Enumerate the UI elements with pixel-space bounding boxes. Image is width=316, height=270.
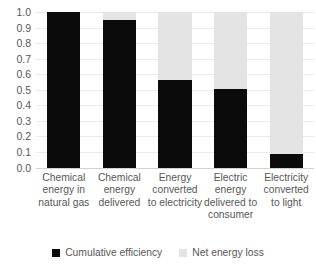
bar-segment-net-energy-loss bbox=[214, 12, 247, 89]
y-axis-tick-label: 0.0 bbox=[0, 163, 31, 173]
y-axis-tick-label: 0.9 bbox=[0, 23, 31, 33]
y-axis-tick-label: 1.0 bbox=[0, 7, 31, 17]
y-axis-tick-label: 0.6 bbox=[0, 69, 31, 79]
plot-area: 1.00.90.80.70.60.50.40.30.20.10.0 bbox=[0, 0, 316, 170]
legend-swatch-icon bbox=[52, 249, 60, 257]
legend-item[interactable]: Net energy loss bbox=[179, 247, 264, 258]
bar-column bbox=[47, 12, 80, 168]
bars-layer bbox=[36, 12, 314, 168]
bar-segment-cumulative-efficiency bbox=[158, 80, 191, 168]
bar-column bbox=[214, 12, 247, 168]
bar-segment-cumulative-efficiency bbox=[103, 20, 136, 168]
chart-legend: Cumulative efficiencyNet energy loss bbox=[0, 247, 316, 258]
y-axis-tick-label: 0.3 bbox=[0, 116, 31, 126]
bar-segment-cumulative-efficiency bbox=[47, 12, 80, 168]
x-axis-category-label: Electric energy delivered to consumer bbox=[203, 172, 259, 222]
bar-segment-net-energy-loss bbox=[270, 12, 303, 154]
legend-swatch-icon bbox=[179, 249, 187, 257]
y-axis-tick-label: 0.4 bbox=[0, 100, 31, 110]
y-axis-tick-label: 0.2 bbox=[0, 131, 31, 141]
y-axis-tick-label: 0.1 bbox=[0, 147, 31, 157]
x-axis-category-label: Chemical energy in natural gas bbox=[36, 172, 92, 209]
x-axis-category-label: Chemical energy delivered bbox=[92, 172, 148, 209]
legend-label: Cumulative efficiency bbox=[65, 247, 162, 258]
y-axis-tick-label: 0.7 bbox=[0, 54, 31, 64]
x-axis-category-label: Energy converted to electricity bbox=[147, 172, 203, 209]
bar-column bbox=[103, 12, 136, 168]
x-axis-category-labels: Chemical energy in natural gasChemical e… bbox=[36, 170, 314, 240]
bar-segment-net-energy-loss bbox=[158, 12, 191, 80]
bar-segment-cumulative-efficiency bbox=[270, 154, 303, 167]
y-axis: 1.00.90.80.70.60.50.40.30.20.10.0 bbox=[0, 0, 34, 170]
bar-segment-cumulative-efficiency bbox=[214, 89, 247, 168]
stacked-bar-chart: 1.00.90.80.70.60.50.40.30.20.10.0 Chemic… bbox=[0, 0, 316, 270]
y-axis-tick-label: 0.8 bbox=[0, 38, 31, 48]
bar-segment-net-energy-loss bbox=[103, 12, 136, 20]
y-axis-tick-label: 0.5 bbox=[0, 85, 31, 95]
bar-column bbox=[158, 12, 191, 168]
bar-column bbox=[270, 12, 303, 168]
legend-label: Net energy loss bbox=[192, 247, 264, 258]
x-axis-category-label: Electricity converted to light bbox=[258, 172, 314, 209]
legend-item[interactable]: Cumulative efficiency bbox=[52, 247, 162, 258]
axis-baseline bbox=[36, 168, 314, 169]
